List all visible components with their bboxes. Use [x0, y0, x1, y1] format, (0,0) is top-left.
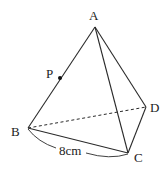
edge-cd — [128, 107, 146, 153]
edge-ad — [95, 27, 146, 107]
label-d: D — [150, 100, 159, 115]
measurement-label: 8cm — [59, 143, 81, 158]
pyramid-diagram: A B C D P 8cm — [0, 0, 165, 169]
label-c: C — [134, 150, 143, 165]
label-p: P — [46, 66, 53, 81]
label-b: B — [11, 124, 20, 139]
edge-ac — [95, 27, 128, 153]
edge-bd-hidden — [28, 107, 146, 128]
label-a: A — [89, 8, 99, 23]
point-p — [58, 76, 62, 80]
